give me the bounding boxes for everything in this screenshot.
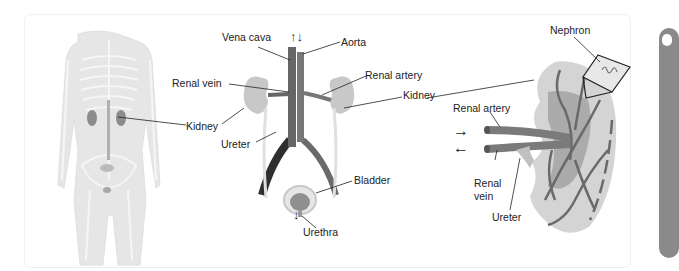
flow-out-arrow-icon: ← (453, 140, 469, 156)
label-vena-cava: Vena cava (222, 32, 271, 43)
kidney-section-icon (484, 55, 630, 233)
flow-in-arrow-icon: → (453, 123, 469, 139)
urinary-tract-icon (244, 47, 354, 217)
label-bladder: Bladder (354, 175, 390, 186)
label-section-vein: vein (474, 191, 493, 202)
flow-down-arrow-icon: ↓ (293, 208, 300, 221)
label-nephron: Nephron (550, 25, 590, 36)
label-body-kidney: Kidney (186, 121, 218, 132)
label-aorta: Aorta (341, 37, 366, 48)
label-renal-artery: Renal artery (365, 70, 422, 81)
label-section-ureter: Ureter (492, 212, 521, 223)
label-ureter: Ureter (221, 139, 250, 150)
flow-arrows-icon: ↑↓ (290, 30, 303, 43)
label-kidney: Kidney (403, 90, 435, 101)
label-urethra: Urethra (303, 227, 338, 238)
label-renal-vein: Renal vein (172, 78, 222, 89)
label-section-renal-artery: Renal artery (453, 103, 510, 114)
label-section-renal: Renal (474, 178, 501, 189)
